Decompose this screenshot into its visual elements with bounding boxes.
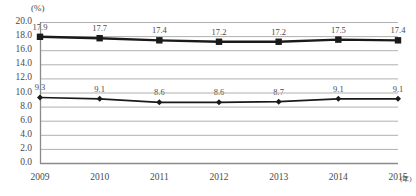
data-point-marker <box>97 96 103 102</box>
data-point-marker <box>37 34 43 40</box>
data-point-marker <box>276 99 282 105</box>
data-point-marker <box>156 99 162 105</box>
data-point-marker <box>395 37 401 43</box>
data-point-marker <box>156 37 162 43</box>
data-series-layer <box>37 34 401 106</box>
data-point-marker <box>96 35 102 41</box>
data-point-marker <box>335 36 341 42</box>
data-point-marker <box>275 39 281 45</box>
data-point-marker <box>395 96 401 102</box>
data-point-marker <box>216 99 222 105</box>
data-point-marker <box>216 39 222 45</box>
data-point-marker <box>37 94 43 100</box>
data-point-marker <box>335 96 341 102</box>
